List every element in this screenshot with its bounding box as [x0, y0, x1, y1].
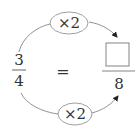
- equals-sign: =: [56, 62, 69, 81]
- bottom-arrow: [92, 96, 118, 113]
- top-arrow: [89, 22, 117, 37]
- bottom-multiply-bubble: ×2: [58, 103, 92, 125]
- left-denominator: 4: [14, 72, 24, 90]
- right-denominator: 8: [114, 75, 124, 93]
- bottom-multiply-label: ×2: [64, 105, 86, 123]
- fraction-equivalence-diagram: ×2 ×2 3 4 = 8: [0, 0, 140, 136]
- left-numerator: 3: [14, 51, 24, 69]
- right-fraction: 8: [102, 43, 135, 93]
- left-fraction: 3 4: [12, 51, 26, 90]
- top-left-arc: [19, 24, 50, 52]
- answer-box[interactable]: [106, 43, 129, 66]
- top-multiply-bubble: ×2: [50, 12, 88, 34]
- bottom-left-arc: [21, 93, 58, 114]
- top-multiply-label: ×2: [58, 14, 80, 32]
